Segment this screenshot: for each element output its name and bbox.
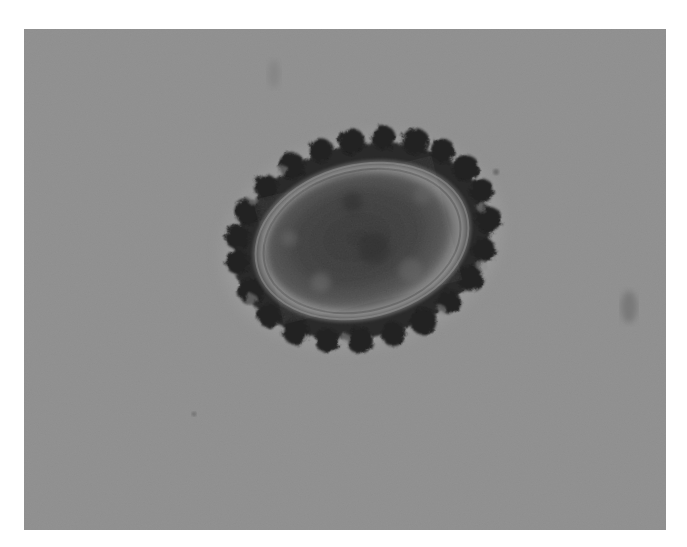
micrograph-image [24, 29, 666, 530]
micrograph-frame: single oval egg with mammillated (bumpy)… [24, 29, 666, 530]
